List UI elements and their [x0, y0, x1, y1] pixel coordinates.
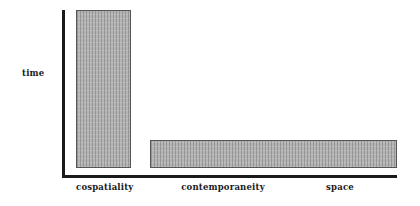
- time-space-diagram: time cospatiality contemporaneity space: [0, 0, 420, 206]
- y-axis-label: time: [22, 68, 44, 78]
- x-axis-line: [62, 175, 397, 178]
- x-label-cospatiality: cospatiality: [76, 182, 132, 192]
- x-label-space: space: [320, 182, 360, 192]
- bar-contemporaneity-space: [150, 140, 397, 168]
- bar-cospatiality: [76, 10, 131, 168]
- x-label-contemporaneity: contemporaneity: [178, 182, 268, 192]
- y-axis-line: [62, 10, 65, 178]
